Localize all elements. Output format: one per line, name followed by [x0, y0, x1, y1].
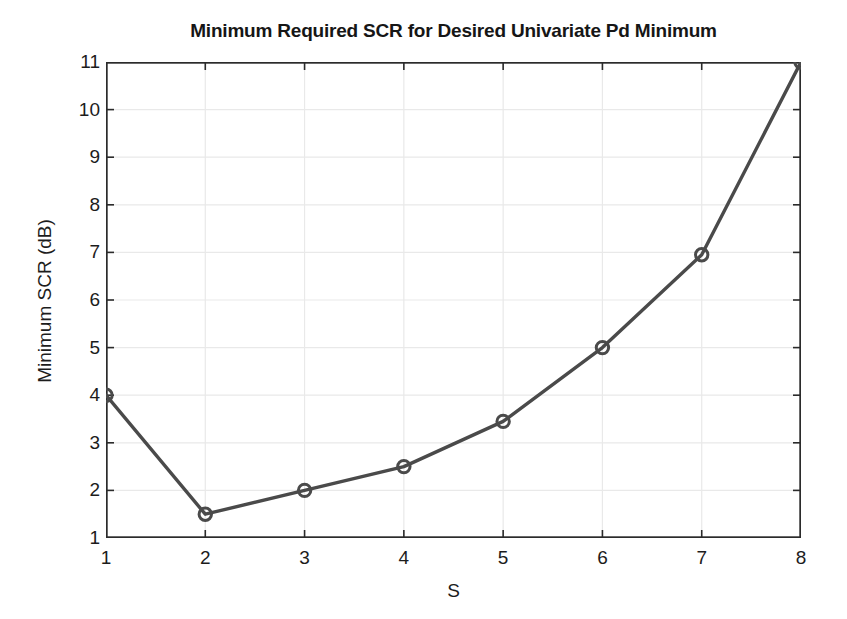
- y-tick-label: 11: [60, 52, 100, 71]
- x-tick-label: 1: [86, 548, 126, 567]
- chart-title: Minimum Required SCR for Desired Univari…: [106, 20, 801, 42]
- x-tick-label: 8: [781, 548, 821, 567]
- y-tick-label: 8: [60, 195, 100, 214]
- data-series-line: [106, 62, 801, 514]
- plot-canvas: [106, 62, 801, 538]
- x-tick-label: 3: [285, 548, 325, 567]
- grid-lines: [106, 62, 801, 538]
- chart-figure: Minimum Required SCR for Desired Univari…: [0, 0, 847, 619]
- y-tick-label: 10: [60, 100, 100, 119]
- y-tick-label: 2: [60, 480, 100, 499]
- x-tick-label: 2: [185, 548, 225, 567]
- y-tick-label: 5: [60, 338, 100, 357]
- y-tick-label: 1: [60, 528, 100, 547]
- x-tick-label: 4: [384, 548, 424, 567]
- x-tick-label: 5: [483, 548, 523, 567]
- y-tick-label: 9: [60, 147, 100, 166]
- y-tick-label: 4: [60, 385, 100, 404]
- data-point-markers: [106, 62, 801, 520]
- x-axis-title: S: [106, 580, 801, 602]
- y-axis-title: Minimum SCR (dB): [34, 151, 56, 451]
- x-tick-label: 6: [582, 548, 622, 567]
- y-tick-label: 7: [60, 242, 100, 261]
- plot-area: [106, 62, 801, 538]
- y-tick-label: 6: [60, 290, 100, 309]
- y-axis-tick-labels: 1234567891011: [52, 62, 100, 538]
- x-axis-tick-labels: 12345678: [106, 548, 801, 574]
- y-tick-label: 3: [60, 433, 100, 452]
- x-tick-label: 7: [682, 548, 722, 567]
